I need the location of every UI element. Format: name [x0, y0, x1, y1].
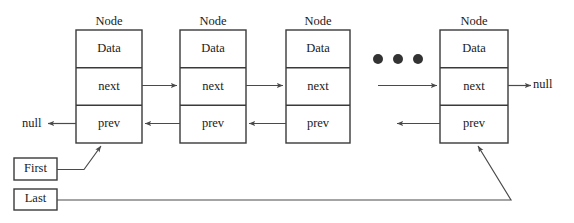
last-pointer-label: Last	[25, 191, 47, 205]
node-1: Node Data next prev	[76, 14, 142, 143]
node-1-label: Node	[95, 14, 123, 28]
node-2-data-cell: Data	[201, 41, 225, 55]
ellipsis-dot-3	[413, 54, 423, 64]
null-left-label: null	[22, 116, 42, 130]
node-2-next-cell: next	[202, 79, 224, 93]
node-4-prev-cell: prev	[463, 116, 486, 130]
ellipsis-dot-2	[393, 54, 403, 64]
node-3-next-cell: next	[307, 79, 329, 93]
node-4-data-cell: Data	[462, 41, 486, 55]
node-1-prev-cell: prev	[98, 116, 121, 130]
last-pointer: Last	[14, 189, 57, 210]
node-4-label: Node	[460, 14, 488, 28]
node-3-prev-cell: prev	[307, 116, 330, 130]
node-2-prev-cell: prev	[202, 116, 225, 130]
diagram-canvas: Node Data next prev Node Data next prev …	[0, 0, 574, 223]
node-3-label: Node	[304, 14, 332, 28]
node-4-next-cell: next	[463, 79, 485, 93]
last-pointer-connector	[57, 146, 511, 200]
node-4: Node Data next prev	[440, 14, 508, 143]
ellipsis-dot-1	[373, 54, 383, 64]
first-pointer-label: First	[24, 161, 47, 175]
node-2: Node Data next prev	[180, 14, 246, 143]
first-pointer: First	[14, 158, 57, 180]
null-right-label: null	[533, 77, 553, 91]
node-3-data-cell: Data	[306, 41, 330, 55]
first-pointer-connector	[57, 146, 101, 170]
node-1-next-cell: next	[98, 79, 120, 93]
node-2-label: Node	[199, 14, 227, 28]
node-3: Node Data next prev	[286, 14, 350, 143]
ellipsis-icon	[373, 54, 423, 64]
doubly-linked-list-diagram: Node Data next prev Node Data next prev …	[0, 0, 574, 223]
node-1-data-cell: Data	[97, 41, 121, 55]
